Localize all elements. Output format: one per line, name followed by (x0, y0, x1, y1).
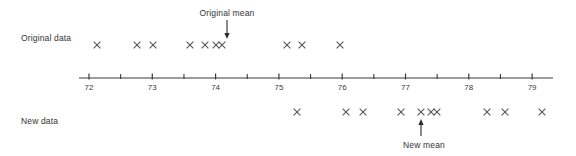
axis-tick-label-77: 77 (401, 83, 410, 92)
axis-tick-label-74: 74 (211, 83, 220, 92)
new-data-mark (294, 109, 301, 116)
new-data-mark (418, 109, 425, 116)
new-data-mark (484, 109, 491, 116)
new-data-mark (502, 109, 509, 116)
axis-tick-label-72: 72 (85, 83, 94, 92)
original-data-mark (299, 42, 306, 49)
original-data-mark (134, 42, 141, 49)
new-data-mark (434, 109, 441, 116)
new-data-marks (294, 109, 546, 116)
axis-tick-label-78: 78 (464, 83, 473, 92)
new-data-mark (360, 109, 367, 116)
axis-tick-label-76: 76 (338, 83, 347, 92)
axis-tick-label-79: 79 (528, 83, 537, 92)
axis-tick-label-75: 75 (274, 83, 283, 92)
original-data-mark (213, 42, 220, 49)
original-data-mark (219, 42, 226, 49)
new-data-mark (539, 109, 546, 116)
original-data-marks (94, 42, 344, 49)
original-data-mark (284, 42, 291, 49)
new-data-mark (428, 109, 435, 116)
original-data-mark (150, 42, 157, 49)
number-line-plot: 7273747576777879 (0, 0, 576, 156)
new-data-mark (398, 109, 405, 116)
new-mean-arrow-head (418, 119, 423, 125)
original-data-mark (187, 42, 194, 49)
dotplot-figure: Original data New data Original mean New… (0, 0, 576, 156)
number-line-axis (79, 74, 553, 80)
axis-tick-label-73: 73 (148, 83, 157, 92)
original-data-mark (202, 42, 209, 49)
new-data-mark (343, 109, 350, 116)
original-data-mark (337, 42, 344, 49)
original-data-mark (94, 42, 101, 49)
original-mean-arrow-head (224, 33, 229, 39)
axis-tick-labels: 7273747576777879 (85, 83, 538, 92)
